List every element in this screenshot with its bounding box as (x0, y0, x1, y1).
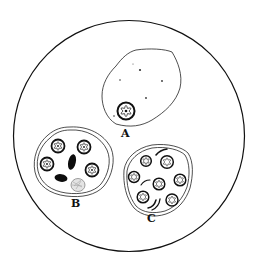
cell-c-inner-membrane (127, 147, 189, 212)
granule (139, 69, 141, 71)
cell-b (34, 127, 113, 197)
cell-c-nucleus (174, 174, 186, 186)
nucleus-lobe-pattern (163, 158, 170, 166)
granule (145, 97, 147, 99)
cell-b-dark-body (67, 153, 78, 170)
cell-c-nucleus (129, 172, 140, 183)
cell-b-label: B (71, 197, 80, 210)
cell-c (124, 144, 193, 216)
crescent-body (156, 149, 167, 155)
nucleus-lobe-pattern (156, 180, 163, 188)
crescent-body (141, 180, 150, 185)
cell-b-dark-body (54, 173, 68, 182)
cell-b-nucleus (52, 140, 65, 153)
nucleus-lobe-pattern (140, 193, 147, 201)
diagram-canvas: A B C (0, 0, 254, 269)
nucleus-lobe-pattern (169, 196, 176, 204)
cell-b-nucleus (78, 141, 91, 154)
cell-c-nucleus (166, 194, 178, 206)
cell-a (102, 49, 181, 126)
cell-a-membrane (102, 49, 181, 126)
cell-b-shaded-body (71, 179, 85, 192)
nucleus-lobe-pattern (143, 157, 149, 164)
nucleus-lobe-pattern (177, 176, 184, 184)
cell-a-granules (113, 64, 163, 117)
granule (133, 64, 134, 65)
granule (119, 79, 121, 81)
cell-b-nucleus (41, 158, 54, 171)
cell-a-nucleus (118, 103, 135, 120)
nucleus-lobe-pattern (131, 173, 137, 180)
cell-b-nucleus (86, 164, 99, 177)
crescent-body (148, 200, 156, 208)
granule (161, 80, 163, 82)
cell-c-nucleus (161, 156, 174, 169)
cell-c-label: C (147, 212, 156, 225)
cell-c-nucleus (137, 191, 149, 203)
cell-c-nucleus (153, 178, 165, 190)
granule (113, 115, 115, 117)
cell-c-nucleus (141, 156, 152, 167)
microscope-field-diagram: A B C (0, 0, 254, 269)
cell-a-label: A (120, 127, 130, 140)
